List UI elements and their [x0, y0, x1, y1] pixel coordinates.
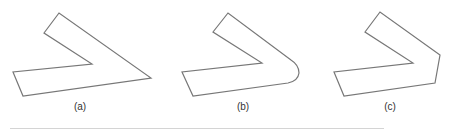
bevel-join-shape: [334, 12, 440, 96]
panel-label-c: (c): [384, 101, 396, 112]
miter-join-shape: [13, 13, 151, 96]
panel-label-a: (a): [74, 101, 86, 112]
round-join-shape: [182, 13, 299, 96]
panel-label-b: (b): [237, 101, 249, 112]
bottom-divider: [10, 128, 384, 129]
